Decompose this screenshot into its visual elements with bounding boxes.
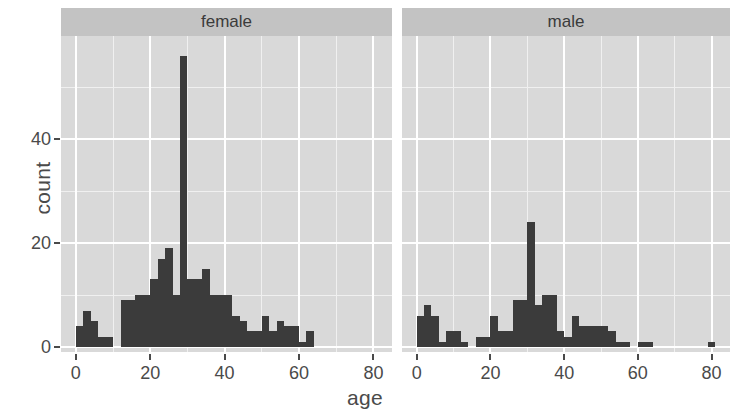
histogram-bar <box>476 337 483 347</box>
y-tick-label: 40 <box>15 129 51 150</box>
histogram-bar <box>232 316 239 347</box>
x-tick-mark <box>637 354 639 360</box>
histogram-bar <box>490 316 497 347</box>
x-tick-mark <box>75 354 77 360</box>
x-tick-mark <box>298 354 300 360</box>
x-tick-label: 0 <box>397 363 437 384</box>
histogram-bar <box>586 326 593 347</box>
x-axis-title: age <box>0 386 730 410</box>
gridline-minor-y <box>402 295 730 296</box>
histogram-bar <box>150 279 157 347</box>
x-tick-label: 20 <box>130 363 170 384</box>
panel-male <box>402 36 730 352</box>
histogram-bar <box>505 331 512 347</box>
histogram-bar <box>579 326 586 347</box>
x-tick-mark <box>489 354 491 360</box>
histogram-bar <box>601 326 608 347</box>
gridline-minor-x <box>261 36 262 352</box>
histogram-bar <box>513 300 520 347</box>
x-tick-mark <box>416 354 418 360</box>
x-tick-label: 40 <box>544 363 584 384</box>
histogram-bar <box>306 331 313 347</box>
gridline-major-x <box>489 36 491 352</box>
gridline-major-x <box>563 36 565 352</box>
x-tick-label: 60 <box>618 363 658 384</box>
histogram-bar <box>121 300 128 347</box>
x-tick-label: 40 <box>205 363 245 384</box>
x-tick-mark <box>372 354 374 360</box>
histogram-bar <box>299 342 306 347</box>
histogram-bar <box>225 295 232 347</box>
histogram-bar <box>135 295 142 347</box>
gridline-minor-y <box>402 191 730 192</box>
gridline-major-y <box>61 242 392 244</box>
histogram-bar <box>520 300 527 347</box>
histogram-bar <box>83 311 90 347</box>
histogram-bar <box>165 248 172 347</box>
histogram-bar <box>180 56 187 347</box>
x-tick-label: 80 <box>692 363 730 384</box>
x-tick-mark <box>149 354 151 360</box>
histogram-bar <box>76 326 83 347</box>
histogram-bar <box>572 316 579 347</box>
gridline-minor-x <box>674 36 675 352</box>
x-tick-mark <box>711 354 713 360</box>
y-tick-mark <box>54 242 60 244</box>
gridline-minor-x <box>453 36 454 352</box>
x-tick-label: 0 <box>56 363 96 384</box>
gridline-major-y <box>402 242 730 244</box>
histogram-bar <box>431 316 438 347</box>
histogram-bar <box>549 295 556 347</box>
histogram-bar <box>98 337 105 347</box>
y-tick-mark <box>54 346 60 348</box>
gridline-minor-x <box>113 36 114 352</box>
histogram-bar <box>158 259 165 347</box>
x-axis-title-text: age <box>347 386 383 410</box>
histogram-bar <box>262 316 269 347</box>
histogram-bar <box>292 326 299 347</box>
histogram-bar <box>616 342 623 347</box>
histogram-bar <box>143 295 150 347</box>
histogram-bar <box>210 295 217 347</box>
gridline-major-x <box>711 36 713 352</box>
y-tick-label: 20 <box>15 233 51 254</box>
x-tick-label: 60 <box>279 363 319 384</box>
histogram-bar <box>187 279 194 347</box>
histogram-bar <box>535 305 542 347</box>
histogram-bar <box>527 222 534 347</box>
histogram-figure: count age 02040 femalemale 0204060800204… <box>0 0 730 413</box>
facet-strip-label: female <box>201 12 252 32</box>
histogram-bar <box>417 316 424 347</box>
x-tick-label: 20 <box>470 363 510 384</box>
gridline-major-x <box>637 36 639 352</box>
histogram-bar <box>623 342 630 347</box>
histogram-bar <box>128 300 135 347</box>
gridline-minor-x <box>601 36 602 352</box>
histogram-bar <box>217 295 224 347</box>
y-tick-mark <box>54 138 60 140</box>
histogram-bar <box>483 337 490 347</box>
histogram-bar <box>284 326 291 347</box>
histogram-bar <box>498 331 505 347</box>
gridline-major-x <box>298 36 300 352</box>
x-tick-label: 80 <box>353 363 393 384</box>
gridline-minor-y <box>61 87 392 88</box>
gridline-major-x <box>75 36 77 352</box>
gridline-minor-x <box>336 36 337 352</box>
gridline-major-x <box>372 36 374 352</box>
histogram-bar <box>247 331 254 347</box>
histogram-bar <box>461 342 468 347</box>
histogram-bar <box>557 331 564 347</box>
gridline-major-y <box>61 138 392 140</box>
y-tick-label: 0 <box>15 337 51 358</box>
x-tick-mark <box>224 354 226 360</box>
histogram-bar <box>564 337 571 347</box>
histogram-bar <box>708 342 715 347</box>
panel-female <box>61 36 392 352</box>
histogram-bar <box>424 305 431 347</box>
gridline-minor-y <box>402 87 730 88</box>
gridline-major-x <box>416 36 418 352</box>
histogram-bar <box>91 321 98 347</box>
histogram-bar <box>454 331 461 347</box>
histogram-bar <box>608 331 615 347</box>
